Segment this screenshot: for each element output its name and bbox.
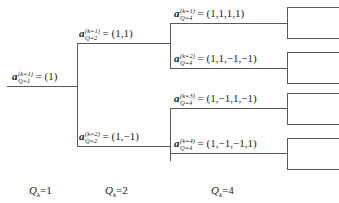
level3-split-2	[287, 52, 288, 83]
level2-branch-1	[77, 43, 170, 44]
level4-branch-8	[287, 169, 339, 170]
level2-label-1: a(k=1)Q=2 = (1,1)	[79, 27, 133, 41]
level3-split-1	[287, 7, 288, 38]
level4-branch-7	[287, 138, 339, 139]
level-label-2: Qk=2	[105, 184, 128, 199]
level3-branch-4	[170, 153, 287, 154]
level-label-3: Qk=4	[211, 184, 234, 199]
root-split	[77, 43, 78, 147]
level4-branch-3	[287, 52, 339, 53]
root-branch	[7, 86, 77, 87]
level3-label-3: a(k=3)Q=4 = (1,−1,1,−1)	[174, 92, 257, 106]
level4-branch-4	[287, 83, 339, 84]
level2-split-1	[170, 23, 171, 69]
level3-branch-2	[170, 68, 287, 69]
level4-branch-5	[287, 93, 339, 94]
level3-branch-3	[170, 108, 287, 109]
level3-label-1: a(k=1)Q=4 = (1,1,1,1)	[174, 7, 244, 21]
level3-split-4	[287, 138, 288, 169]
level4-branch-6	[287, 124, 339, 125]
tree-diagram: a(k=1)Q=1 = (1) a(k=1)Q=2 = (1,1) a(k=2)…	[0, 0, 339, 203]
level4-branch-2	[287, 38, 339, 39]
level3-split-3	[287, 93, 288, 124]
level2-label-2: a(k=2)Q=2 = (1,−1)	[79, 130, 139, 144]
level3-branch-1	[170, 23, 287, 24]
level3-label-2: a(k=2)Q=4 = (1,1,−1,−1)	[174, 52, 257, 66]
level4-branch-1	[287, 7, 339, 8]
level-label-1: Qk=1	[29, 184, 52, 199]
level3-label-4: a(k=4)Q=4 = (1,−1,−1,1)	[174, 137, 257, 151]
root-label: a(k=1)Q=1 = (1)	[12, 70, 57, 84]
level2-branch-2	[77, 146, 170, 147]
